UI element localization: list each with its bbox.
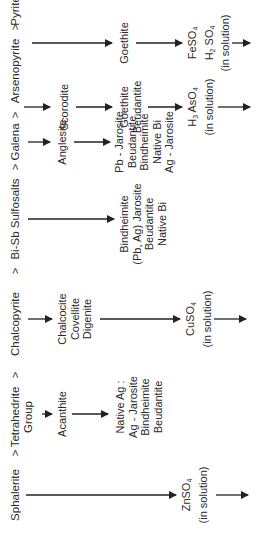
bindheimite: Bindheimite: [139, 376, 152, 438]
native-bi: Native Bi: [156, 183, 169, 264]
goethite: Goethite: [118, 81, 131, 134]
h2so4-formula: H2 SO4: [203, 15, 220, 72]
znso4-formula: ZnSO4: [180, 467, 197, 524]
in-solution-note: (in solution): [201, 291, 214, 348]
oxidation-diagram: Sphalerite > Tetrahedrite Group > Chalco…: [0, 0, 258, 535]
znso4-solution: ZnSO4 (in solution): [180, 467, 209, 524]
in-solution-note: (in solution): [197, 467, 210, 524]
ag-jarosite: Ag - Jarosite: [127, 376, 140, 438]
covellite: Covellite: [69, 293, 82, 344]
chalcocite-group: Chalcocite Covellite Digenite: [56, 293, 94, 344]
ag-jarosite: Ag - Jarosite: [163, 111, 176, 173]
cuso4-solution: CuSO4 (in solution): [184, 291, 213, 348]
cuso4-formula: CuSO4: [184, 291, 201, 348]
goethite: Goethite: [118, 22, 131, 64]
acanthite: Acanthite: [56, 391, 69, 437]
bisb-products: Bindheimite (Pb, Ag) Jarosite Beudantite…: [118, 183, 168, 264]
beudantite: Beudantite: [152, 376, 165, 438]
digenite: Digenite: [81, 293, 94, 344]
native-ag-group: Native Ag : Ag - Jarosite Bindheimite Be…: [114, 376, 164, 438]
h3aso4-solution: H3 AsO4 (in solution): [186, 79, 215, 136]
native-ag: Native Ag :: [114, 376, 127, 438]
in-solution-note: (in solution): [203, 79, 216, 136]
bindheimite: Bindheimite: [118, 183, 131, 264]
native-bi: Native Bi: [151, 111, 164, 173]
scorodite: Scorodite: [58, 84, 71, 130]
beudantite: Beudantite: [131, 81, 144, 134]
pb-ag-jarosite: (Pb, Ag) Jarosite: [131, 183, 144, 264]
in-solution-note: (in solution): [219, 15, 232, 72]
feso4-h2so4-solution: FeSO4 H2 SO4 (in solution): [186, 15, 232, 72]
feso4-formula: FeSO4: [186, 15, 203, 72]
beudantite: Beudantite: [143, 183, 156, 264]
chalcocite: Chalcocite: [56, 293, 69, 344]
arseno-products: Goethite Beudantite: [118, 81, 143, 134]
h3aso4-formula: H3 AsO4: [186, 79, 203, 136]
